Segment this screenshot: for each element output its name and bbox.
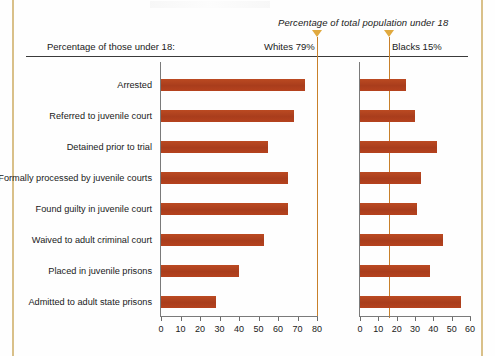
bar (360, 203, 417, 215)
x-tick (470, 317, 471, 321)
whites-y-axis (160, 62, 161, 317)
category-label: Detained prior to trial (67, 142, 152, 152)
top-artifact (150, 1, 270, 8)
bar (161, 296, 216, 308)
bar (360, 141, 437, 153)
chart-figure: Percentage of total population under 18 … (0, 0, 495, 356)
bar (161, 141, 268, 153)
x-tick (317, 317, 318, 321)
category-label: Formally processed by juvenile courts (0, 173, 152, 183)
bar (360, 265, 430, 277)
x-tick (298, 317, 299, 321)
x-tick-label: 80 (312, 324, 322, 334)
category-label: Referred to juvenile court (49, 111, 152, 121)
x-tick (378, 317, 379, 321)
category-label-column: ArrestedReferred to juvenile courtDetain… (0, 62, 152, 317)
right-frame-rule (481, 0, 483, 356)
x-tick-label: 40 (234, 324, 244, 334)
x-tick-label: 20 (392, 324, 402, 334)
x-tick-label: 60 (273, 324, 283, 334)
bar (161, 110, 294, 122)
bar (360, 172, 421, 184)
left-caption: Percentage of those under 18: (47, 41, 175, 52)
bar (360, 296, 461, 308)
x-tick-label: 10 (373, 324, 383, 334)
x-tick-label: 50 (447, 324, 457, 334)
x-tick-label: 40 (428, 324, 438, 334)
blacks-y-axis (359, 62, 360, 317)
whites-panel: 01020304050607080 (160, 62, 318, 317)
bar (161, 265, 239, 277)
x-tick (278, 317, 279, 321)
whites-marker-label: Whites 79% (264, 41, 315, 52)
x-tick-label: 10 (175, 324, 185, 334)
x-tick (433, 317, 434, 321)
category-label: Found guilty in juvenile court (36, 204, 152, 214)
x-tick (397, 317, 398, 321)
x-tick (415, 317, 416, 321)
x-tick (220, 317, 221, 321)
x-tick-label: 30 (214, 324, 224, 334)
x-tick (200, 317, 201, 321)
blacks-marker-triangle-icon (384, 30, 394, 37)
header-divider (26, 56, 468, 57)
bar (360, 79, 406, 91)
blacks-marker-label: Blacks 15% (392, 41, 442, 52)
bar (360, 234, 443, 246)
bar (161, 203, 288, 215)
x-tick (259, 317, 260, 321)
x-tick (360, 317, 361, 321)
x-tick (239, 317, 240, 321)
x-tick-label: 0 (158, 324, 163, 334)
x-tick (181, 317, 182, 321)
x-tick-label: 20 (195, 324, 205, 334)
blacks-panel: 0102030405060 (359, 62, 471, 317)
x-tick (161, 317, 162, 321)
legend-note: Percentage of total population under 18 (278, 17, 448, 28)
category-label: Placed in juvenile prisons (48, 266, 152, 276)
category-label: Admitted to adult state prisons (28, 297, 152, 307)
bar (161, 79, 305, 91)
category-label: Waived to adult criminal court (32, 235, 152, 245)
x-tick-label: 60 (465, 324, 475, 334)
whites-marker-triangle-icon (312, 30, 322, 37)
x-tick-label: 30 (410, 324, 420, 334)
x-tick-label: 50 (253, 324, 263, 334)
x-tick-label: 70 (292, 324, 302, 334)
x-tick (452, 317, 453, 321)
bar (161, 234, 264, 246)
x-tick-label: 0 (357, 324, 362, 334)
category-label: Arrested (117, 80, 152, 90)
bar (161, 172, 288, 184)
bar (360, 110, 415, 122)
